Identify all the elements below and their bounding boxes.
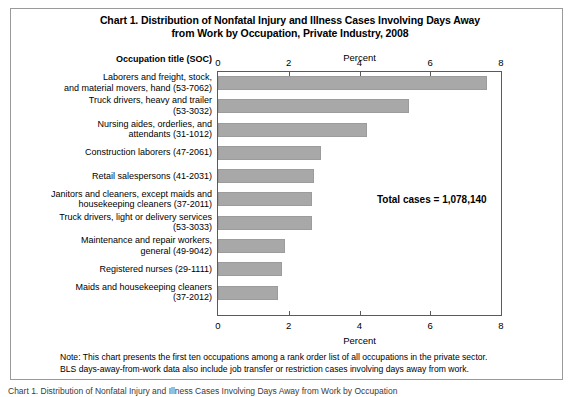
category-label-row: Maintenance and repair workers,general (… xyxy=(22,234,212,257)
category-label-line: Retail salespersons (41-2031) xyxy=(92,171,212,182)
category-label-row: Nursing aides, orderlies, andattendants … xyxy=(22,118,212,141)
bar-row xyxy=(218,165,501,188)
x-tick-label-bot-8: 8 xyxy=(491,320,511,331)
plot-area: 0022446688 Total cases = 1,078,140 xyxy=(217,71,502,316)
bar xyxy=(218,169,314,183)
chart-title: Chart 1. Distribution of Nonfatal Injury… xyxy=(40,14,540,40)
x-tick-label-top-2: 2 xyxy=(279,57,299,68)
bar-row xyxy=(218,142,501,165)
chart-title-line2: from Work by Occupation, Private Industr… xyxy=(40,27,540,40)
category-label-line: Janitors and cleaners, except maids and xyxy=(51,189,212,200)
category-label-line: Construction laborers (47-2061) xyxy=(85,147,212,158)
category-label-column: Occupation title (SOC) Laborers and frei… xyxy=(22,71,212,316)
chart-note-line2: BLS days-away-from-work data also includ… xyxy=(60,364,530,376)
page-bottom-cut-text: Chart 1. Distribution of Nonfatal Injury… xyxy=(8,386,428,397)
x-tick-label-bot-2: 2 xyxy=(279,320,299,331)
category-label-row: Laborers and freight, stock,and material… xyxy=(22,71,212,94)
total-cases-annotation: Total cases = 1,078,140 xyxy=(377,194,487,205)
x-axis-label-bottom: Percent xyxy=(217,335,502,346)
x-tick-label-top-4: 4 xyxy=(350,57,370,68)
category-label-row: Truck drivers, heavy and trailer(53-3032… xyxy=(22,94,212,117)
bar xyxy=(218,76,487,90)
occupation-title-header: Occupation title (SOC) xyxy=(116,54,212,64)
x-tick-label-top-8: 8 xyxy=(491,57,511,68)
bar xyxy=(218,123,367,137)
bar-row xyxy=(218,95,501,118)
bar xyxy=(218,286,278,300)
bar xyxy=(218,146,321,160)
category-label-line: attendants (31-1012) xyxy=(97,129,212,140)
category-label-line: Laborers and freight, stock, xyxy=(64,72,212,83)
category-label-line: (37-2012) xyxy=(75,292,212,303)
x-tick-label-bot-4: 4 xyxy=(350,320,370,331)
category-label-row: Truck drivers, light or delivery service… xyxy=(22,211,212,234)
x-tick-label-top-0: 0 xyxy=(208,57,228,68)
category-label-row: Construction laborers (47-2061) xyxy=(22,141,212,164)
category-label-line: (53-3033) xyxy=(59,222,212,233)
bar-row xyxy=(218,212,501,235)
bar-row xyxy=(218,258,501,281)
category-label-line: (53-3032) xyxy=(89,106,212,117)
category-label-line: Truck drivers, heavy and trailer xyxy=(89,95,212,106)
category-label-line: Maids and housekeeping cleaners xyxy=(75,282,212,293)
category-label-line: Registered nurses (29-1111) xyxy=(99,264,212,275)
category-label-line: Nursing aides, orderlies, and xyxy=(97,119,212,130)
category-label-row: Maids and housekeeping cleaners(37-2012) xyxy=(22,281,212,304)
category-label-row: Registered nurses (29-1111) xyxy=(22,257,212,280)
bar xyxy=(218,262,282,276)
category-label-line: Maintenance and repair workers, xyxy=(81,235,212,246)
x-tick-label-bot-0: 0 xyxy=(208,320,228,331)
bar-row xyxy=(218,282,501,305)
category-label-line: general (49-9042) xyxy=(81,246,212,257)
bar xyxy=(218,216,312,230)
bar xyxy=(218,99,409,113)
chart-page: Chart 1. Distribution of Nonfatal Injury… xyxy=(0,0,577,397)
x-tick-label-bot-6: 6 xyxy=(420,320,440,331)
category-label-line: Truck drivers, light or delivery service… xyxy=(59,212,212,223)
category-label-row: Retail salespersons (41-2031) xyxy=(22,164,212,187)
bar-row xyxy=(218,119,501,142)
x-tick-label-top-6: 6 xyxy=(420,57,440,68)
bar-row xyxy=(218,72,501,95)
chart-note: Note: This chart presents the first ten … xyxy=(60,352,530,375)
category-label-row: Janitors and cleaners, except maids andh… xyxy=(22,187,212,210)
chart-note-line1: Note: This chart presents the first ten … xyxy=(60,352,530,364)
chart-title-line1: Chart 1. Distribution of Nonfatal Injury… xyxy=(100,14,480,26)
bar xyxy=(218,239,285,253)
bar xyxy=(218,192,312,206)
category-label-line: housekeeping cleaners (37-2011) xyxy=(51,199,212,210)
bar-row xyxy=(218,235,501,258)
category-label-line: and material movers, hand (53-7062) xyxy=(64,83,212,94)
